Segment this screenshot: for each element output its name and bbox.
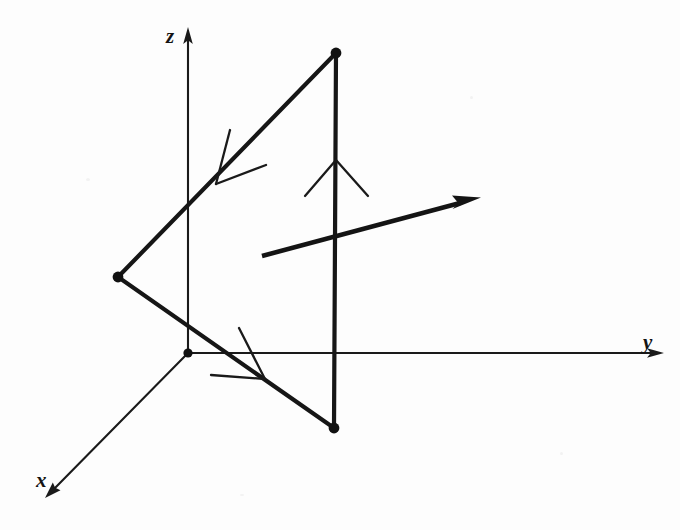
axes-group — [45, 27, 664, 498]
origin-dot — [183, 348, 192, 357]
axis-y — [188, 348, 664, 358]
axis-label-x: x — [36, 470, 47, 491]
vertex-dot-bottom — [329, 423, 340, 434]
direction-arrow-upper-left — [216, 130, 266, 184]
axis-x — [45, 353, 188, 498]
triangle-outline — [118, 53, 336, 428]
axis-z — [183, 27, 193, 353]
normal-vector-shaft — [262, 203, 460, 256]
figure-canvas: z y x — [0, 0, 680, 530]
direction-arrow-right-edge-barb-a — [305, 160, 336, 196]
axis-label-z: z — [166, 26, 174, 47]
direction-arrow-upper-left-barb-a — [216, 130, 230, 184]
scan-speck — [560, 452, 563, 455]
scan-speck — [86, 178, 90, 181]
scan-speck — [470, 96, 473, 99]
axis-x-line — [53, 353, 188, 490]
direction-arrow-right-edge-barb-b — [336, 160, 368, 196]
vector-diagram — [0, 0, 680, 530]
vertex-dot-top — [331, 48, 342, 59]
direction-arrows-group — [211, 130, 368, 379]
normal-vector-arrow — [262, 196, 481, 257]
scan-speck — [240, 494, 244, 496]
axis-label-y: y — [643, 332, 652, 353]
vertex-dot-left — [113, 272, 124, 283]
